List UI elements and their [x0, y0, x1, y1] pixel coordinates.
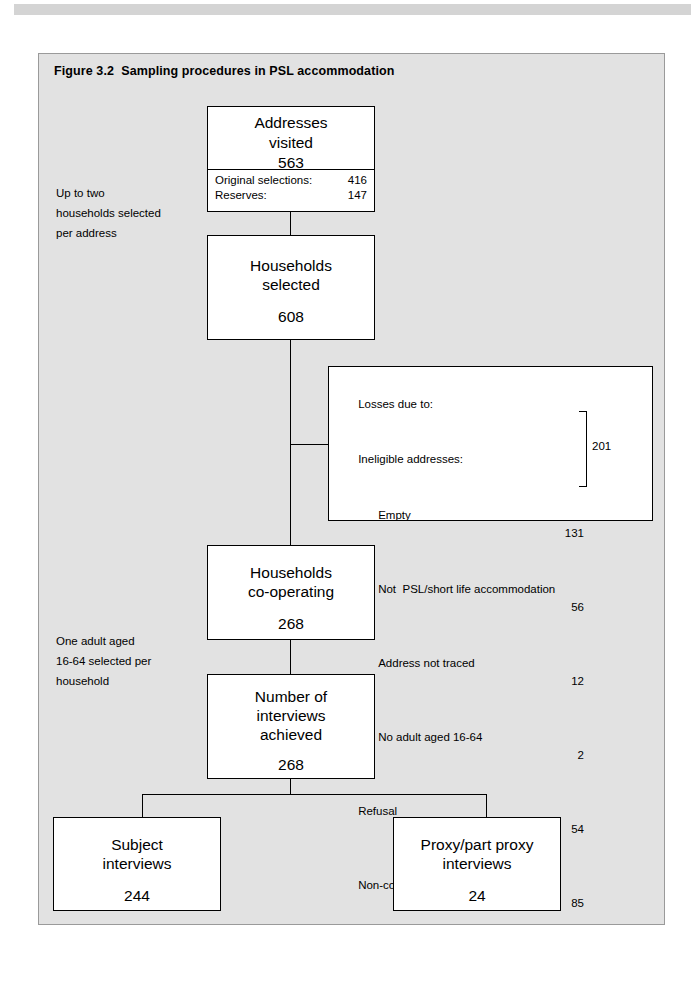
figure-title: Figure 3.2 Sampling procedures in PSL ac… [54, 64, 394, 78]
box-subject-interviews[interactable]: Subject interviews 244 [53, 817, 221, 911]
box-subject-interviews-title: Subject interviews [54, 835, 220, 873]
box-losses-due-to[interactable]: Losses due to: Ineligible addresses: Emp… [328, 366, 653, 521]
box-interviews-achieved-title: Number of interviews achieved [208, 687, 374, 744]
box-addresses-subrows: Original selections: 416 Reserves: 147 [208, 170, 374, 203]
spacer [394, 873, 560, 886]
box-interviews-achieved-value: 268 [208, 755, 374, 774]
box-interviews-achieved[interactable]: Number of interviews achieved 268 [207, 674, 375, 779]
subrow-original-selections-value: 416 [337, 173, 367, 188]
box-proxy-interviews-value: 24 [394, 886, 560, 905]
ineligible-total-bracket [579, 411, 587, 487]
connector-branch-to-losses [290, 444, 328, 445]
losses-row-not-psl: Not PSL/short life accommodation 56 [339, 561, 652, 635]
connector-coop-to-interviews [290, 640, 291, 674]
losses-heading: Losses due to: [339, 376, 652, 432]
box-households-selected[interactable]: Households selected 608 [207, 235, 375, 340]
box-addresses-head: Addresses visited 563 [208, 107, 374, 170]
connector-households-trunk [290, 340, 291, 545]
subrow-reserves-value: 147 [337, 188, 367, 203]
box-households-co-operating-value: 268 [208, 614, 374, 633]
connector-interviews-stem [290, 779, 291, 794]
connector-to-subject [142, 794, 143, 817]
spacer [208, 744, 374, 755]
ineligible-total-value: 201 [592, 439, 611, 453]
losses-row-address-not-traced: Address not traced 12 [339, 635, 652, 709]
spacer [208, 601, 374, 614]
box-households-selected-value: 608 [208, 307, 374, 326]
box-households-selected-title: Households selected [208, 256, 374, 294]
box-households-co-operating[interactable]: Households co-operating 268 [207, 545, 375, 640]
subrow-reserves: Reserves: 147 [215, 188, 367, 203]
note-up-to-two-households: Up to two households selected per addres… [56, 183, 191, 243]
connector-addresses-to-households [290, 212, 291, 235]
box-subject-interviews-value: 244 [54, 886, 220, 905]
losses-row-empty: Empty 131 [339, 487, 652, 561]
box-proxy-interviews[interactable]: Proxy/part proxy interviews 24 [393, 817, 561, 911]
figure-frame: Figure 3.2 Sampling procedures in PSL ac… [38, 53, 665, 925]
spacer [54, 873, 220, 886]
box-addresses-visited[interactable]: Addresses visited 563 Original selection… [207, 106, 375, 212]
note-one-adult-aged: One adult aged 16-64 selected per househ… [56, 631, 191, 691]
losses-row-no-adult-16-64: No adult aged 16-64 2 [339, 709, 652, 783]
box-households-co-operating-title: Households co-operating [208, 563, 374, 601]
spacer [208, 294, 374, 307]
subrow-original-selections-label: Original selections: [215, 173, 312, 188]
subrow-reserves-label: Reserves: [215, 188, 267, 203]
box-addresses-title: Addresses visited [208, 113, 374, 153]
box-proxy-interviews-title: Proxy/part proxy interviews [394, 835, 560, 873]
subrow-original-selections: Original selections: 416 [215, 173, 367, 188]
page-top-edge-bar [14, 4, 691, 15]
